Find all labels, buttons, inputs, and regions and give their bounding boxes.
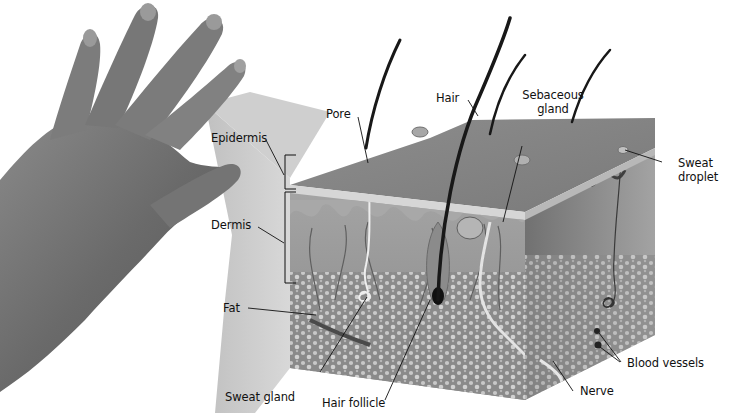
label-sebaceous-gland: Sebaceous gland [513, 88, 593, 116]
label-nerve: Nerve [580, 384, 614, 398]
sweat-droplet-shape [618, 147, 628, 154]
sweat-droplet-shape [412, 127, 428, 137]
skin-diagram [0, 0, 731, 413]
label-blood-vessels: Blood vessels [627, 356, 704, 370]
label-pore: Pore [326, 107, 351, 121]
label-dermis: Dermis [211, 218, 251, 232]
sebaceous-gland-shape [457, 217, 483, 239]
label-sweat-droplet-line1: Sweat [678, 156, 718, 170]
label-hair-follicle: Hair follicle [322, 396, 385, 410]
skin-front-face [290, 190, 530, 407]
label-sweat-gland: Sweat gland [225, 390, 295, 404]
label-fat: Fat [223, 301, 240, 315]
hair-strand [366, 40, 400, 148]
label-sebaceous-gland-line1: Sebaceous [513, 88, 593, 102]
label-sweat-droplet: Sweat droplet [678, 156, 718, 184]
label-sebaceous-gland-line2: gland [513, 102, 593, 116]
fingernail [140, 3, 156, 21]
fat-layer [290, 272, 530, 407]
label-epidermis: Epidermis [211, 131, 267, 145]
hand-illustration [0, 3, 246, 392]
fingernail [234, 59, 246, 73]
sweat-droplet-shape [514, 155, 530, 165]
fat-layer-side [520, 255, 660, 405]
fingernail [83, 29, 97, 47]
label-sweat-droplet-line2: droplet [678, 170, 718, 184]
fingernail [206, 14, 222, 30]
hand-palm [0, 115, 237, 392]
label-hair: Hair [436, 91, 459, 105]
